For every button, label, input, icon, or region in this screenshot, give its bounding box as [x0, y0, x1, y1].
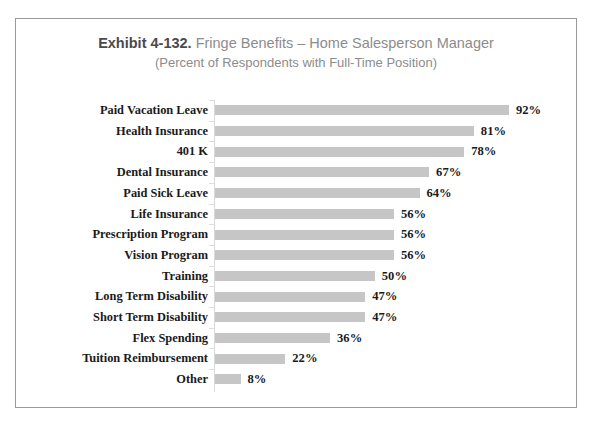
- bar-and-value: 47%: [215, 307, 397, 328]
- bar-row: Tuition Reimbursement22%: [16, 348, 578, 369]
- category-label: Paid Sick Leave: [16, 183, 208, 204]
- axis-tick: [209, 286, 214, 287]
- chart-title: Exhibit 4-132. Fringe Benefits – Home Sa…: [16, 33, 576, 53]
- bar: [215, 250, 394, 260]
- axis-tick: [209, 141, 214, 142]
- bar-and-value: 47%: [215, 286, 397, 307]
- chart-title-block: Exhibit 4-132. Fringe Benefits – Home Sa…: [16, 33, 576, 72]
- chart-subtitle: (Percent of Respondents with Full-Time P…: [16, 53, 576, 72]
- axis-tick: [209, 224, 214, 225]
- plot-area: Paid Vacation Leave92%Health Insurance81…: [16, 96, 578, 401]
- bar-value-label: 22%: [292, 352, 317, 365]
- bar-and-value: 56%: [215, 224, 426, 245]
- bar-row: Prescription Program56%: [16, 224, 578, 245]
- bar-and-value: 50%: [215, 266, 407, 287]
- bar: [215, 230, 394, 240]
- chart-title-text: Fringe Benefits – Home Salesperson Manag…: [196, 35, 494, 51]
- category-label: Life Insurance: [16, 204, 208, 225]
- bar-row: Dental Insurance67%: [16, 162, 578, 183]
- category-label: Tuition Reimbursement: [16, 348, 208, 369]
- chart-frame: Exhibit 4-132. Fringe Benefits – Home Sa…: [15, 18, 577, 408]
- bar: [215, 292, 365, 302]
- bar-row: 401 K78%: [16, 141, 578, 162]
- bar-value-label: 92%: [516, 104, 541, 117]
- bar-value-label: 50%: [382, 270, 407, 283]
- axis-tick: [209, 100, 214, 101]
- category-label: Dental Insurance: [16, 162, 208, 183]
- category-label: Paid Vacation Leave: [16, 100, 208, 121]
- category-label: Health Insurance: [16, 121, 208, 142]
- bar-row: Vision Program56%: [16, 245, 578, 266]
- bar: [215, 126, 474, 136]
- category-label: Flex Spending: [16, 328, 208, 349]
- bar-and-value: 81%: [215, 121, 506, 142]
- category-label: Training: [16, 266, 208, 287]
- bar-value-label: 64%: [427, 187, 452, 200]
- axis-tick: [209, 204, 214, 205]
- bar-value-label: 8%: [248, 373, 267, 386]
- bar-row: Short Term Disability47%: [16, 307, 578, 328]
- axis-tick: [209, 162, 214, 163]
- bar-and-value: 8%: [215, 369, 266, 390]
- axis-tick: [209, 328, 214, 329]
- bar-value-label: 36%: [337, 332, 362, 345]
- category-label: Vision Program: [16, 245, 208, 266]
- bar-row: Other8%: [16, 369, 578, 390]
- bar: [215, 354, 285, 364]
- bar: [215, 271, 375, 281]
- bar-value-label: 56%: [401, 208, 426, 221]
- axis-tick: [209, 183, 214, 184]
- category-label: Prescription Program: [16, 224, 208, 245]
- bar-and-value: 36%: [215, 328, 362, 349]
- bar-and-value: 56%: [215, 204, 426, 225]
- bar: [215, 312, 365, 322]
- bar-value-label: 56%: [401, 249, 426, 262]
- bar: [215, 209, 394, 219]
- bar-row: Flex Spending36%: [16, 328, 578, 349]
- bar: [215, 333, 330, 343]
- bar-value-label: 47%: [372, 290, 397, 303]
- bar-value-label: 67%: [436, 166, 461, 179]
- bar-value-label: 78%: [471, 145, 496, 158]
- axis-tick: [209, 307, 214, 308]
- bar: [215, 188, 420, 198]
- category-label: Other: [16, 369, 208, 390]
- bar-value-label: 47%: [372, 311, 397, 324]
- bar: [215, 147, 464, 157]
- bar-and-value: 67%: [215, 162, 461, 183]
- category-label: 401 K: [16, 141, 208, 162]
- bar-value-label: 56%: [401, 228, 426, 241]
- bar: [215, 105, 509, 115]
- bar: [215, 167, 429, 177]
- bar-and-value: 56%: [215, 245, 426, 266]
- bar-value-label: 81%: [481, 125, 506, 138]
- bar-and-value: 78%: [215, 141, 496, 162]
- axis-tick: [209, 348, 214, 349]
- bar-row: Health Insurance81%: [16, 121, 578, 142]
- axis-tick: [209, 266, 214, 267]
- bar-row: Life Insurance56%: [16, 204, 578, 225]
- bar-and-value: 22%: [215, 348, 317, 369]
- bar-row: Paid Sick Leave64%: [16, 183, 578, 204]
- bar-row: Long Term Disability47%: [16, 286, 578, 307]
- bar: [215, 374, 241, 384]
- bar-row: Paid Vacation Leave92%: [16, 100, 578, 121]
- axis-tick: [209, 121, 214, 122]
- category-label: Short Term Disability: [16, 307, 208, 328]
- bar-and-value: 92%: [215, 100, 541, 121]
- bar-and-value: 64%: [215, 183, 452, 204]
- axis-tick: [209, 369, 214, 370]
- bar-row: Training50%: [16, 266, 578, 287]
- chart-title-exhibit-number: Exhibit 4-132.: [98, 35, 191, 51]
- axis-tick: [209, 245, 214, 246]
- category-label: Long Term Disability: [16, 286, 208, 307]
